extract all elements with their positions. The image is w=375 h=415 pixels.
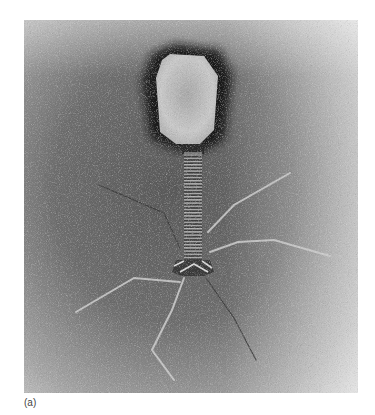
figure-caption: (a) xyxy=(24,397,36,409)
micrograph-image xyxy=(24,20,358,393)
phage-micrograph xyxy=(24,20,358,393)
